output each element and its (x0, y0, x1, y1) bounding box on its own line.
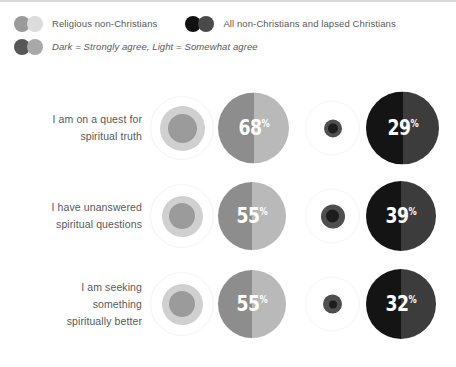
data-row: I am on a quest forspiritual truth68%29% (0, 84, 456, 172)
religious-percent-value: 55% (236, 206, 267, 227)
data-row: I have unansweredspiritual questions55%3… (0, 172, 456, 260)
legend-row: Dark = Strongly agree, Light = Somewhat … (0, 35, 456, 58)
religious-split-circle: 68% (218, 93, 289, 164)
legend-row: Religious non-ChristiansAll non-Christia… (0, 12, 456, 35)
religious-split-circle: 55% (218, 270, 286, 338)
all-core-circle (328, 123, 338, 133)
all-mid-circle (323, 295, 342, 314)
percent-symbol: % (261, 118, 269, 129)
all-core-circle (329, 300, 337, 308)
all-nested-bubble (305, 277, 360, 332)
all-mid-circle (324, 119, 342, 137)
religious-nested-bubble (150, 184, 214, 248)
legend-entry: All non-Christians and lapsed Christians (185, 16, 395, 32)
religious-percent-number: 68 (238, 116, 261, 140)
religious-mid-circle (162, 196, 203, 237)
row-label: I am on a quest forspiritual truth (8, 111, 142, 145)
religious-mid-circle (160, 106, 205, 151)
percent-symbol: % (409, 206, 417, 217)
all-mid-circle (321, 204, 345, 228)
religious-nested-bubble (150, 96, 214, 160)
all-outer-ring (305, 101, 360, 156)
all-split-circle: 32% (366, 269, 436, 339)
religious-percent-value: 68% (238, 118, 269, 139)
legend-entry: Dark = Strongly agree, Light = Somewhat … (14, 39, 258, 55)
religious-core-circle (169, 291, 195, 317)
religious-core-circle (168, 114, 197, 143)
all-percent-number: 39 (385, 204, 408, 228)
row-label-line: spiritual truth (8, 128, 142, 145)
all-outer-ring (305, 189, 360, 244)
row-label-line: spiritually better (8, 313, 142, 330)
all-outer-ring (305, 277, 360, 332)
all-percent-bubble: 29% (366, 92, 439, 165)
all-percent-value: 29% (387, 118, 418, 139)
religious-split-circle: 55% (218, 182, 286, 250)
row-label-line: something (8, 296, 142, 313)
religious-mid-circle (162, 284, 203, 325)
row-label-line: I am on a quest for (8, 111, 142, 128)
legend-label: Religious non-Christians (52, 18, 157, 29)
legend-label: All non-Christians and lapsed Christians (223, 18, 395, 29)
percent-symbol: % (409, 294, 417, 305)
all-split-circle: 29% (366, 92, 439, 165)
religious-outer-ring (150, 96, 214, 160)
all-core-circle (326, 210, 339, 223)
row-label: I am seekingsomethingspiritually better (8, 279, 142, 330)
religious-outer-ring (150, 272, 214, 336)
religious-percent-number: 55 (236, 292, 259, 316)
all-percent-bubble: 32% (366, 269, 436, 339)
all-percent-number: 32 (385, 292, 408, 316)
legend-swatch (14, 16, 43, 32)
all-nested-bubble (305, 101, 360, 156)
legend-swatch (14, 39, 43, 55)
religious-outer-ring (150, 184, 214, 248)
percent-symbol: % (260, 294, 268, 305)
percent-symbol: % (410, 118, 418, 129)
row-label: I have unansweredspiritual questions (8, 199, 142, 233)
religious-core-circle (169, 203, 195, 229)
religious-nested-bubble (150, 272, 214, 336)
religious-percent-bubble: 68% (218, 93, 289, 164)
legend-entry: Religious non-Christians (14, 16, 157, 32)
religious-percent-value: 55% (236, 294, 267, 315)
religious-percent-number: 55 (236, 204, 259, 228)
legend-label: Dark = Strongly agree, Light = Somewhat … (52, 41, 258, 52)
row-label-line: I have unanswered (8, 199, 142, 216)
all-percent-value: 32% (385, 294, 416, 315)
row-label-line: I am seeking (8, 279, 142, 296)
all-nested-bubble (305, 189, 360, 244)
legend-dot-light-icon (27, 39, 43, 55)
all-split-circle: 39% (366, 181, 436, 251)
percent-symbol: % (260, 206, 268, 217)
all-percent-number: 29 (387, 116, 410, 140)
data-rows: I am on a quest forspiritual truth68%29%… (0, 84, 456, 348)
religious-percent-bubble: 55% (218, 182, 286, 250)
religious-percent-bubble: 55% (218, 270, 286, 338)
infographic-root: Religious non-ChristiansAll non-Christia… (0, 0, 456, 367)
legend-dot-light-icon (198, 16, 214, 32)
data-row: I am seekingsomethingspiritually better5… (0, 260, 456, 348)
legend-swatch (185, 16, 214, 32)
legend: Religious non-ChristiansAll non-Christia… (0, 12, 456, 58)
all-percent-bubble: 39% (366, 181, 436, 251)
legend-dot-light-icon (27, 16, 43, 32)
row-label-line: spiritual questions (8, 216, 142, 233)
all-percent-value: 39% (385, 206, 416, 227)
